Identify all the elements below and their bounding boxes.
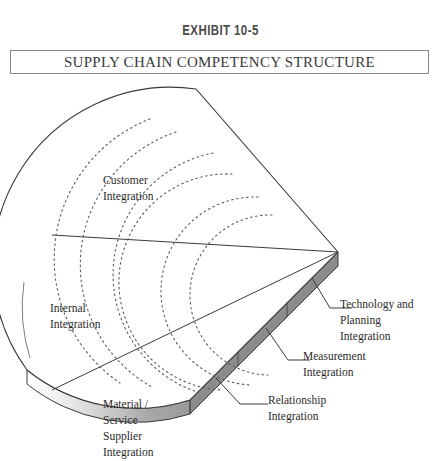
label-supplier-line1: Material / xyxy=(103,398,149,410)
label-technology-line3: Integration xyxy=(340,330,391,343)
exhibit-number: EXHIBIT 10-5 xyxy=(40,22,402,38)
label-relationship-line2: Integration xyxy=(268,410,319,423)
label-internal-line1: Internal xyxy=(50,302,86,314)
wedge-top-face xyxy=(0,87,338,408)
supply-chain-wedge-diagram: Customer Integration Internal Integratio… xyxy=(0,70,441,461)
leader-relationship xyxy=(216,378,268,404)
wedge-outline xyxy=(0,87,338,408)
label-supplier-line4: Integration xyxy=(103,446,154,459)
label-supplier-line3: Supplier xyxy=(103,430,142,443)
label-customer-line2: Integration xyxy=(103,190,154,203)
label-internal-line2: Integration xyxy=(50,318,101,331)
label-customer-line1: Customer xyxy=(103,174,148,186)
exhibit-figure: EXHIBIT 10-5 SUPPLY CHAIN COMPETENCY STR… xyxy=(0,0,441,461)
label-measurement-line2: Integration xyxy=(303,366,354,379)
label-measurement-line1: Measurement xyxy=(303,350,366,362)
label-technology-line2: Planning xyxy=(340,314,381,327)
label-supplier-line2: Service xyxy=(103,414,137,426)
label-relationship-line1: Relationship xyxy=(268,394,326,407)
label-technology-line1: Technology and xyxy=(340,298,414,311)
